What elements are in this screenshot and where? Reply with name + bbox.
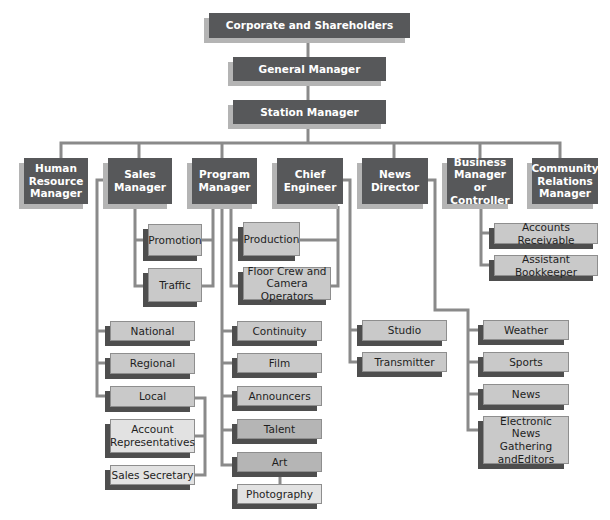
box-traffic: Traffic — [148, 268, 202, 302]
box-studio: Studio — [362, 320, 447, 341]
box-label: News Director — [362, 168, 428, 193]
box-announcers: Announcers — [237, 386, 322, 406]
box-label: Assistant Bookkeeper — [495, 253, 597, 278]
box-station-manager: Station Manager — [233, 100, 386, 124]
box-label: Promotion — [148, 234, 201, 247]
box-label: Film — [269, 357, 290, 370]
box-business-manager: Business Manager or Controller — [447, 158, 513, 204]
box-label: Art — [272, 456, 288, 469]
box-accounts-receivable: Accounts Receivable — [494, 223, 598, 244]
box-general-manager: General Manager — [233, 57, 386, 81]
box-label: Accounts Receivable — [495, 221, 597, 246]
box-sales-manager: Sales Manager — [108, 158, 172, 204]
box-sales-secretary: Sales Secretary — [110, 465, 195, 485]
box-label: Sports — [509, 356, 543, 369]
box-label: Sales Manager — [108, 168, 172, 193]
box-art: Art — [237, 452, 322, 472]
box-label: Program Manager — [192, 168, 257, 193]
box-transmitter: Transmitter — [362, 352, 447, 372]
box-label: Station Manager — [260, 106, 359, 119]
box-community-relations-manager: Community Relations Manager — [532, 158, 598, 204]
box-label: Traffic — [159, 279, 191, 292]
box-talent: Talent — [237, 419, 322, 439]
box-national: National — [110, 321, 195, 341]
box-label: Announcers — [248, 390, 310, 403]
box-news: News — [483, 384, 569, 405]
box-label: Production — [244, 233, 300, 246]
box-news-director: News Director — [362, 158, 428, 204]
box-label: General Manager — [259, 63, 361, 76]
box-label: Studio — [388, 324, 421, 337]
box-weather: Weather — [483, 320, 569, 340]
org-chart: Corporate and Shareholders General Manag… — [0, 0, 610, 520]
box-label: Business Manager or Controller — [447, 156, 513, 206]
box-promotion: Promotion — [148, 224, 202, 256]
box-label: Account Representatives — [110, 423, 195, 448]
box-account-representatives: Account Representatives — [110, 419, 195, 453]
box-corporate-shareholders: Corporate and Shareholders — [209, 13, 410, 38]
box-film: Film — [237, 353, 322, 373]
box-sports: Sports — [483, 352, 569, 372]
box-label: Transmitter — [375, 356, 435, 369]
box-continuity: Continuity — [237, 321, 322, 341]
box-production: Production — [243, 222, 300, 256]
box-label: Chief Engineer — [277, 168, 343, 193]
box-label: Regional — [130, 357, 175, 370]
box-chief-engineer: Chief Engineer — [277, 158, 343, 204]
box-label: Sales Secretary — [112, 469, 194, 482]
box-local: Local — [110, 386, 195, 407]
box-label: Human Resource Manager — [24, 162, 88, 200]
box-label: National — [131, 325, 175, 338]
box-photography: Photography — [237, 484, 322, 504]
box-floor-crew-camera-operators: Floor Crew and Camera Operators — [243, 267, 331, 300]
box-label: Floor Crew and Camera Operators — [244, 265, 330, 303]
box-program-manager: Program Manager — [192, 158, 257, 204]
box-label: Continuity — [252, 325, 306, 338]
box-label: Weather — [504, 324, 548, 337]
box-label: Photography — [246, 488, 313, 501]
box-label: News — [512, 388, 540, 401]
box-electronic-news-gathering: Electronic News Gathering andEditors — [483, 416, 569, 464]
box-label: Local — [139, 390, 166, 403]
box-regional: Regional — [110, 353, 195, 374]
box-label: Talent — [264, 423, 295, 436]
box-label: Electronic News Gathering andEditors — [490, 415, 562, 465]
box-label: Community Relations Manager — [531, 162, 598, 200]
box-label: Corporate and Shareholders — [226, 19, 393, 32]
box-human-resource-manager: Human Resource Manager — [24, 158, 88, 204]
box-assistant-bookkeeper: Assistant Bookkeeper — [494, 255, 598, 276]
